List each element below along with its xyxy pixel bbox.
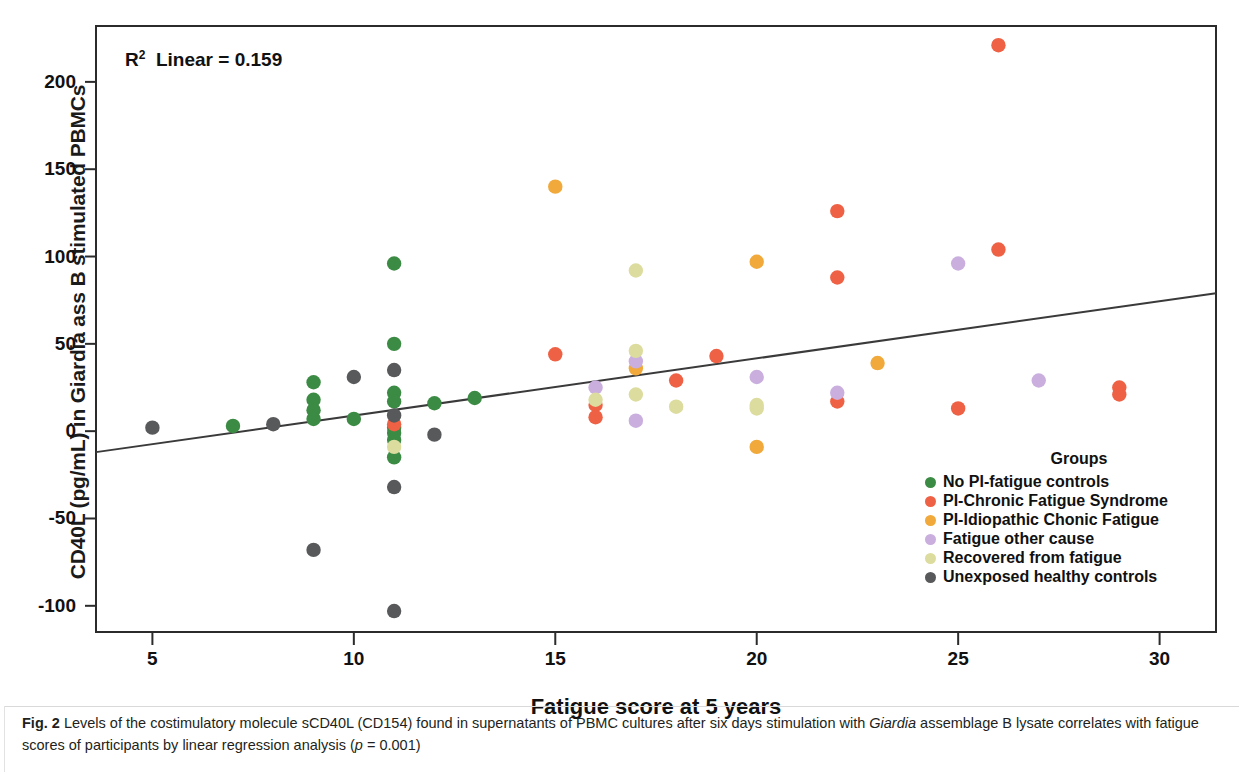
y-axis-tick-labels: 200150100500-50-100 xyxy=(0,0,90,777)
legend-item-label: No PI-fatigue controls xyxy=(943,473,1109,491)
caption-text-1: Levels of the costimulatory molecule sCD… xyxy=(64,715,869,731)
caption-text-3: = 0.001) xyxy=(363,737,421,753)
legend-item: Recovered from fatigue xyxy=(925,549,1215,567)
y-tick-label: 100 xyxy=(44,246,76,268)
x-tick-label: 15 xyxy=(545,648,566,670)
r-squared-value: Linear = 0.159 xyxy=(156,49,282,70)
legend-item: No PI-fatigue controls xyxy=(925,473,1215,491)
r-squared-annotation: R2 Linear = 0.159 xyxy=(125,48,282,71)
legend: Groups No PI-fatigue controlsPI-Chronic … xyxy=(925,450,1215,587)
y-tick-label: -100 xyxy=(38,595,76,617)
legend-marker-icon xyxy=(925,496,936,507)
r-squared-prefix: R xyxy=(125,49,139,70)
legend-item: PI-Idiopathic Chonic Fatigue xyxy=(925,511,1215,529)
x-tick-label: 5 xyxy=(147,648,158,670)
legend-item-label: PI-Idiopathic Chonic Fatigue xyxy=(943,511,1159,529)
legend-title: Groups xyxy=(943,450,1215,468)
x-tick-label: 10 xyxy=(343,648,364,670)
figure-container: CD40L (pg/mL) in Giardia ass B stimulate… xyxy=(0,0,1243,777)
legend-marker-icon xyxy=(925,477,936,488)
x-tick-label: 25 xyxy=(948,648,969,670)
legend-item: Unexposed healthy controls xyxy=(925,568,1215,586)
caption-divider xyxy=(4,706,1239,707)
legend-item-label: Recovered from fatigue xyxy=(943,549,1122,567)
legend-item: PI-Chronic Fatigue Syndrome xyxy=(925,492,1215,510)
figure-caption: Fig. 2 Levels of the costimulatory molec… xyxy=(22,712,1227,757)
legend-marker-icon xyxy=(925,572,936,583)
legend-item-label: PI-Chronic Fatigue Syndrome xyxy=(943,492,1168,510)
y-tick-label: 150 xyxy=(44,158,76,180)
y-tick-label: -50 xyxy=(49,507,76,529)
caption-italic-1: Giardia xyxy=(869,715,916,731)
legend-marker-icon xyxy=(925,553,936,564)
x-tick-label: 20 xyxy=(746,648,767,670)
y-tick-label: 0 xyxy=(65,420,76,442)
legend-items: No PI-fatigue controlsPI-Chronic Fatigue… xyxy=(925,473,1215,586)
x-tick-label: 30 xyxy=(1149,648,1170,670)
legend-marker-icon xyxy=(925,515,936,526)
legend-marker-icon xyxy=(925,534,936,545)
caption-italic-2: p xyxy=(355,737,363,753)
legend-item-label: Unexposed healthy controls xyxy=(943,568,1157,586)
legend-item-label: Fatigue other cause xyxy=(943,530,1094,548)
caption-label: Fig. 2 xyxy=(22,715,60,731)
y-tick-label: 50 xyxy=(55,333,76,355)
r-squared-exponent: 2 xyxy=(139,48,146,62)
caption-left-rule xyxy=(4,706,5,772)
legend-item: Fatigue other cause xyxy=(925,530,1215,548)
y-tick-label: 200 xyxy=(44,71,76,93)
